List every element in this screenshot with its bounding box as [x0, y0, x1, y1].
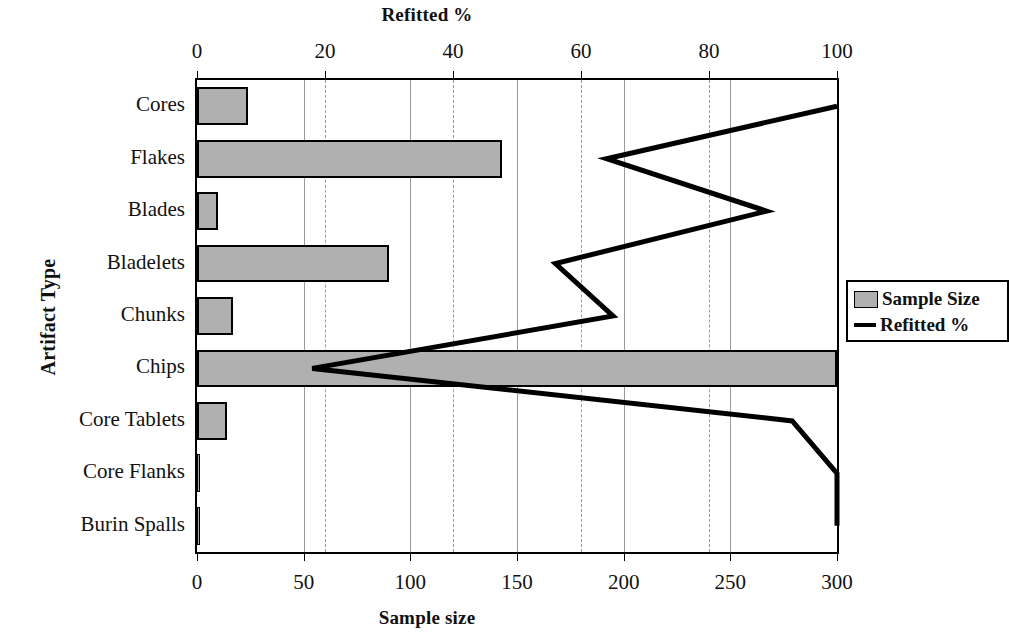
tick-label-bottom: 150: [501, 570, 533, 595]
category-label: Blades: [128, 197, 185, 222]
tick-label-top: 20: [315, 39, 336, 64]
plot-area: 050100150200250300020406080100: [195, 78, 839, 554]
tick-bottom: [304, 552, 305, 561]
legend-item-refitted-percent: Refitted %: [854, 312, 1007, 338]
bar: [197, 140, 502, 178]
category-label: Core Tablets: [79, 406, 185, 431]
category-label: Core Flanks: [83, 459, 185, 484]
category-label: Flakes: [130, 144, 185, 169]
top-axis-title: Refitted %: [0, 4, 1009, 26]
legend-line-icon: [854, 323, 876, 327]
category-label: Chips: [136, 354, 185, 379]
category-label: Burin Spalls: [81, 511, 185, 536]
top-axis-title-text: Refitted %: [381, 4, 472, 26]
bar: [197, 402, 227, 440]
bottom-axis-title-text: Sample size: [379, 607, 476, 629]
tick-bottom: [410, 552, 411, 561]
gridline-top: [581, 80, 582, 552]
gridline-bottom: [517, 80, 518, 552]
tick-top: [709, 71, 710, 80]
legend-item-sample-size: Sample Size: [854, 286, 1007, 312]
gridline-top: [709, 80, 710, 552]
bar: [197, 454, 200, 492]
y-axis-category-labels: CoresFlakesBladesBladeletsChunksChipsCor…: [0, 78, 195, 550]
tick-label-top: 60: [571, 39, 592, 64]
tick-label-top: 100: [821, 39, 853, 64]
tick-top: [453, 71, 454, 80]
tick-label-bottom: 300: [821, 570, 853, 595]
legend: Sample Size Refitted %: [846, 280, 1009, 342]
bar: [197, 507, 200, 545]
bar: [197, 87, 248, 125]
tick-bottom: [197, 552, 198, 561]
plot-inner: 050100150200250300020406080100: [197, 80, 837, 552]
tick-bottom: [837, 552, 838, 561]
tick-label-bottom: 200: [608, 570, 640, 595]
legend-label-sample-size: Sample Size: [882, 288, 980, 310]
bar: [197, 245, 389, 283]
tick-label-bottom: 50: [293, 570, 314, 595]
category-label: Cores: [136, 92, 185, 117]
category-label: Chunks: [121, 302, 185, 327]
tick-top: [837, 71, 838, 80]
tick-label-top: 0: [192, 39, 203, 64]
bottom-axis-title: Sample size: [0, 607, 1009, 629]
tick-top: [581, 71, 582, 80]
category-label: Bladelets: [107, 249, 185, 274]
tick-bottom: [517, 552, 518, 561]
tick-bottom: [730, 552, 731, 561]
bar: [197, 297, 233, 335]
tick-top: [325, 71, 326, 80]
tick-top: [197, 71, 198, 80]
gridline-bottom: [624, 80, 625, 552]
tick-label-bottom: 250: [715, 570, 747, 595]
bar: [197, 350, 837, 388]
tick-label-top: 40: [443, 39, 464, 64]
legend-swatch-icon: [854, 291, 878, 308]
tick-label-bottom: 100: [395, 570, 427, 595]
gridline-bottom: [730, 80, 731, 552]
chart-container: Refitted % Sample size Artifact Type Cor…: [0, 0, 1009, 633]
tick-label-bottom: 0: [192, 570, 203, 595]
bar: [197, 192, 218, 230]
tick-label-top: 80: [699, 39, 720, 64]
tick-bottom: [624, 552, 625, 561]
legend-label-refitted-percent: Refitted %: [880, 314, 969, 336]
